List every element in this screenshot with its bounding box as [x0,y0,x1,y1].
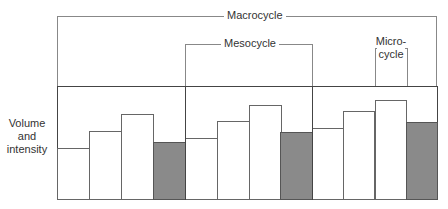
load-microcycle-bar [121,114,154,200]
mesocycle-divider-2 [312,86,313,200]
mesocycle-bracket-left [185,44,186,86]
load-microcycle-bar [217,121,250,200]
load-microcycle-bar [375,100,407,200]
mesocycle-label: Mesocycle [221,37,279,50]
y-axis-label-line2: and [0,130,54,143]
microcycle-label-line1: Micro- [373,35,409,48]
recovery-microcycle-bar [280,132,313,200]
recovery-microcycle-bar [406,122,438,200]
microcycle-bracket-right [407,48,408,86]
load-microcycle-bar [89,131,122,200]
y-axis-label-line1: Volume [0,117,54,130]
macrocycle-bracket-right [436,16,437,86]
load-microcycle-bar [249,105,282,200]
load-microcycle-bar [343,111,375,200]
macrocycle-bracket-left [57,16,58,86]
y-axis-label-line3: intensity [0,143,54,156]
mesocycle-bracket-right [312,44,313,86]
recovery-microcycle-bar [153,142,186,200]
macrocycle-label: Macrocycle [224,9,286,22]
microcycle-label-line2: cycle [377,48,405,61]
load-microcycle-bar [57,148,90,200]
mesocycle-divider-1 [185,86,186,200]
microcycle-bracket-left [375,48,376,86]
y-axis-label: Volume and intensity [0,117,54,156]
load-microcycle-bar [312,128,344,200]
load-microcycle-bar [185,138,218,200]
